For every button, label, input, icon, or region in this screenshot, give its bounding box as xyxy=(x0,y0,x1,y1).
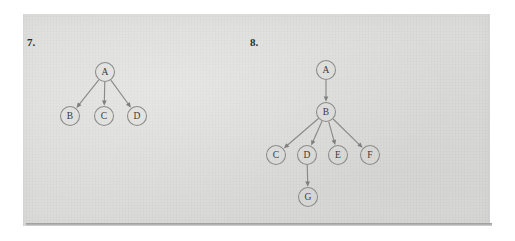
tree-diagrams: ABCD ABCDEFG xyxy=(0,0,515,241)
node-label: A xyxy=(102,67,109,77)
edge-B-to-E xyxy=(329,122,336,145)
node-label: C xyxy=(273,150,279,160)
node-F: F xyxy=(361,146,380,165)
node-B: B xyxy=(61,107,80,126)
arrow-head-icon xyxy=(126,102,131,108)
diagram-8: ABCDEFG xyxy=(267,61,380,207)
node-E: E xyxy=(329,146,348,165)
node-G: G xyxy=(299,188,318,207)
edge-B-to-F xyxy=(333,119,362,148)
node-label: D xyxy=(304,150,311,160)
node-label: E xyxy=(335,150,341,160)
edge-A-to-C xyxy=(102,82,107,106)
edge-B-to-C xyxy=(284,119,319,149)
arrow-head-icon xyxy=(102,100,107,105)
node-label: B xyxy=(323,107,329,117)
node-label: G xyxy=(305,192,312,202)
node-label: A xyxy=(323,65,330,75)
node-label: F xyxy=(367,150,372,160)
node-D: D xyxy=(298,146,317,165)
node-label: B xyxy=(67,111,73,121)
node-A: A xyxy=(96,63,115,82)
node-C: C xyxy=(95,107,114,126)
edge-A-to-B xyxy=(324,80,329,102)
arrow-head-icon xyxy=(324,97,329,102)
node-label: C xyxy=(101,111,107,121)
node-A: A xyxy=(317,61,336,80)
arrow-head-icon xyxy=(305,181,310,186)
diagram-7: ABCD xyxy=(61,63,147,126)
edge-A-to-B xyxy=(76,80,98,108)
node-label: D xyxy=(134,111,141,121)
edge-A-to-D xyxy=(111,80,131,108)
node-D: D xyxy=(128,107,147,126)
node-C: C xyxy=(267,146,286,165)
scanned-page: 7. 8. ABCD ABCDEFG xyxy=(0,0,515,241)
arrow-head-icon xyxy=(332,139,336,145)
edge-B-to-D xyxy=(311,121,322,145)
node-B: B xyxy=(317,103,336,122)
edge-D-to-G xyxy=(305,165,310,187)
